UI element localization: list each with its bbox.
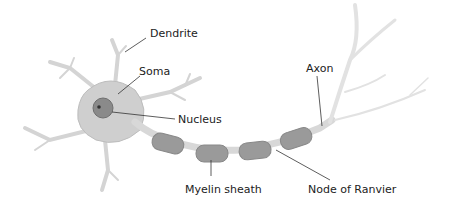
neuron-illustration [0, 0, 452, 207]
neuron-diagram: Dendrite Soma Nucleus Axon Myelin sheath… [0, 0, 452, 207]
label-axon: Axon [306, 63, 333, 74]
nucleolus-shape [97, 105, 101, 109]
label-soma: Soma [139, 66, 170, 77]
nucleus-shape [93, 98, 113, 118]
myelin-segments [150, 125, 314, 162]
label-nucleus: Nucleus [178, 114, 222, 125]
label-node-of-ranvier: Node of Ranvier [308, 184, 396, 195]
axon-terminals [330, 5, 428, 122]
label-myelin-sheath: Myelin sheath [185, 184, 262, 195]
label-dendrite: Dendrite [150, 28, 198, 39]
